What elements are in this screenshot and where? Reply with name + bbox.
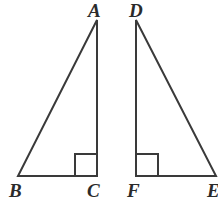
vertex-label-d: D <box>129 1 143 20</box>
right-angle-marker-f <box>136 154 158 176</box>
vertex-label-c: C <box>87 181 100 200</box>
triangle-abc <box>18 20 97 176</box>
geometry-figure: A D B C F E <box>0 0 218 205</box>
right-angle-marker-c <box>75 154 97 176</box>
vertex-label-a: A <box>88 1 101 20</box>
triangle-def <box>136 20 216 176</box>
triangle-def-outline <box>136 20 216 176</box>
vertex-label-e: E <box>207 181 218 200</box>
vertex-label-f: F <box>127 181 140 200</box>
geometry-canvas <box>0 0 218 205</box>
vertex-label-b: B <box>9 181 22 200</box>
triangle-abc-outline <box>18 20 97 176</box>
